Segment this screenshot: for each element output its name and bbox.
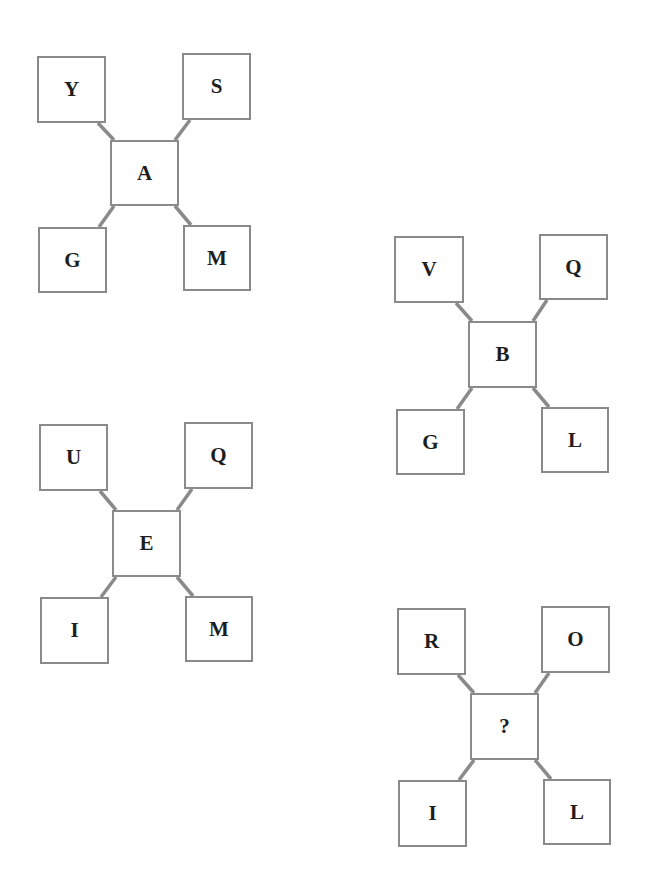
- cluster-3-top-left-box: U: [39, 424, 108, 491]
- puzzle-canvas: Y S A G M V Q B G L U Q E I M R O ? I L: [0, 0, 648, 876]
- cluster-2-bottom-right-box: L: [541, 407, 609, 473]
- cluster-1-bottom-left-box: G: [38, 227, 107, 293]
- cluster-4-top-right-box: O: [541, 606, 610, 673]
- cluster-1-bottom-right-box: M: [183, 225, 251, 291]
- cluster-3-center-box: E: [112, 510, 181, 577]
- cluster-2-top-left-connector: [456, 303, 472, 321]
- cluster-4-bottom-left-connector: [459, 760, 474, 780]
- cluster-1-bottom-left-connector: [99, 206, 114, 227]
- cluster-2-top-left-box: V: [394, 236, 464, 303]
- cluster-4-top-left-connector: [458, 675, 474, 693]
- cluster-4-bottom-right-box: L: [543, 779, 611, 845]
- cluster-3-bottom-right-connector: [177, 577, 193, 596]
- cluster-2-bottom-left-connector: [457, 388, 472, 409]
- cluster-4-top-left-box: R: [397, 608, 466, 675]
- cluster-3-top-left-connector: [100, 491, 116, 510]
- cluster-4-center-missing-box: ?: [470, 693, 539, 760]
- cluster-1-center-box: A: [110, 140, 179, 206]
- cluster-4-top-right-connector: [535, 673, 549, 693]
- cluster-2-top-right-box: Q: [539, 234, 608, 300]
- cluster-3-bottom-left-box: I: [40, 597, 109, 664]
- cluster-3-bottom-right-box: M: [185, 596, 253, 662]
- cluster-1-bottom-right-connector: [175, 206, 191, 225]
- cluster-1-top-left-box: Y: [37, 56, 106, 123]
- cluster-2-bottom-right-connector: [533, 388, 549, 407]
- cluster-4-bottom-left-box: I: [398, 780, 467, 847]
- cluster-2-center-box: B: [468, 321, 537, 388]
- cluster-3-top-right-box: Q: [184, 422, 253, 489]
- cluster-2-top-right-connector: [533, 300, 547, 321]
- cluster-3-top-right-connector: [177, 489, 192, 510]
- cluster-1-top-right-connector: [175, 120, 190, 140]
- cluster-4-bottom-right-connector: [535, 760, 551, 779]
- cluster-1-top-right-box: S: [182, 53, 251, 120]
- cluster-2-bottom-left-box: G: [396, 409, 465, 475]
- cluster-1-top-left-connector: [98, 123, 114, 140]
- cluster-3-bottom-left-connector: [101, 577, 116, 597]
